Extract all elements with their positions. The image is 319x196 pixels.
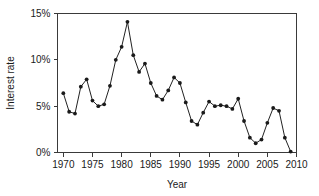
data-series-line [63, 22, 290, 152]
data-point [85, 77, 89, 81]
data-point [207, 100, 211, 104]
data-point [172, 76, 176, 80]
data-point [213, 104, 217, 108]
y-tick-label: 0% [36, 147, 51, 158]
data-point [79, 85, 83, 89]
x-axis-title: Year [167, 179, 188, 190]
data-point [236, 97, 240, 101]
data-point [126, 20, 130, 24]
x-tick-label: 1985 [140, 159, 163, 170]
data-point [225, 104, 229, 108]
data-point [260, 138, 264, 142]
data-point [289, 150, 293, 154]
y-axis-title: Interest rate [5, 56, 16, 110]
data-point [254, 141, 258, 145]
data-point [166, 89, 170, 93]
y-tick-label: 10% [30, 54, 50, 65]
data-point [190, 119, 194, 123]
data-point [196, 123, 200, 127]
data-point [67, 110, 71, 114]
data-point [96, 104, 100, 108]
data-point [201, 111, 205, 115]
chart-figure: 1970197519801985199019952000200520100%5%… [0, 0, 319, 196]
data-point [131, 53, 135, 57]
data-point [283, 136, 287, 140]
x-tick-label: 1980 [110, 159, 133, 170]
y-tick-label: 5% [36, 101, 51, 112]
data-point [161, 98, 165, 102]
data-point [91, 99, 95, 103]
x-tick-label: 1995 [198, 159, 221, 170]
data-point [219, 103, 223, 107]
data-point [143, 62, 147, 66]
x-tick-label: 2000 [227, 159, 250, 170]
y-axis: 0%5%10%15% [30, 8, 57, 158]
data-point [108, 84, 112, 88]
data-point [277, 109, 281, 113]
data-point [230, 107, 234, 111]
x-tick-label: 1970 [52, 159, 75, 170]
data-point [248, 136, 252, 140]
data-point [61, 91, 65, 95]
data-point [178, 81, 182, 85]
x-axis: 197019751980198519901995200020052010 [52, 153, 308, 170]
data-point [184, 101, 188, 105]
y-tick-label: 15% [30, 8, 50, 19]
x-tick-label: 2005 [256, 159, 279, 170]
data-point [137, 70, 141, 74]
x-tick-label: 1990 [169, 159, 192, 170]
data-point-markers [61, 20, 292, 154]
data-point [242, 119, 246, 123]
data-point [73, 112, 77, 116]
plot-frame [58, 14, 297, 153]
data-point [149, 81, 153, 85]
data-point [265, 121, 269, 125]
data-point [114, 58, 118, 62]
data-point [155, 94, 159, 98]
data-point [120, 45, 124, 49]
x-tick-label: 1975 [81, 159, 104, 170]
data-point [102, 102, 106, 106]
data-point [271, 106, 275, 110]
interest-rate-line-chart: 1970197519801985199019952000200520100%5%… [0, 0, 319, 196]
x-tick-label: 2010 [285, 159, 308, 170]
